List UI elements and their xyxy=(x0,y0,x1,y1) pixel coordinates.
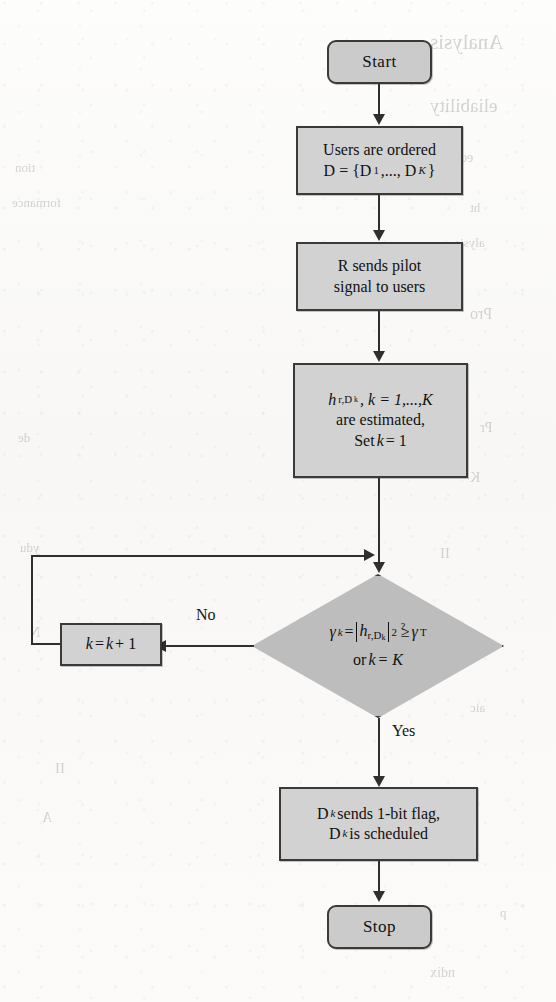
connector-no-branch xyxy=(160,645,254,647)
node-decision: γk = hr,Dk2 ? ≥γT or k = K xyxy=(252,574,504,718)
order-users-mid: ,..., D xyxy=(381,161,417,181)
loop-return-horizontal xyxy=(31,555,371,557)
decision-or-k: k xyxy=(368,649,375,671)
decision-power: 2 xyxy=(391,625,396,640)
node-order-users: Users are ordered D = {D1,..., DK} xyxy=(296,126,463,195)
node-increment-k-text: k = k + 1 xyxy=(86,634,136,654)
estimate-range: , k = 1,...,K xyxy=(360,390,433,410)
estimate-h-sub: r,D xyxy=(338,393,352,407)
estimate-h-subsub: k xyxy=(354,395,358,405)
node-stop: Stop xyxy=(327,905,432,949)
arrowhead-schedule-to-stop xyxy=(373,891,385,902)
node-send-pilot-line2: signal to users xyxy=(334,277,426,297)
connector-estimate-to-decision xyxy=(378,478,380,570)
edge-label-no: No xyxy=(196,606,216,624)
node-estimate-line3: Set k = 1 xyxy=(354,431,407,451)
order-users-d-prefix: D = {D xyxy=(324,161,372,181)
decision-gamma-t: γ xyxy=(412,621,418,643)
node-estimate-channels: hr,Dk, k = 1,...,K are estimated, Set k … xyxy=(293,363,468,478)
decision-abs-group: hr,Dk xyxy=(356,622,390,642)
decision-gamma-t-sub: T xyxy=(420,625,427,640)
node-estimate-line2: are estimated, xyxy=(336,410,425,430)
decision-h-subsub: k xyxy=(381,633,385,642)
node-send-pilot: R sends pilot signal to users xyxy=(296,242,463,311)
decision-equals: = xyxy=(345,621,354,643)
decision-question-mark: ? xyxy=(401,620,405,634)
node-start: Start xyxy=(327,40,432,84)
schedule-line2-rest: is scheduled xyxy=(349,824,428,844)
arrowhead-start-to-order xyxy=(373,114,385,125)
node-estimate-line1: hr,Dk, k = 1,...,K xyxy=(328,390,432,410)
increment-k2: k xyxy=(106,634,113,654)
connector-pilot-to-estimate xyxy=(378,311,380,355)
decision-condition-line1: γk = hr,Dk2 ? ≥γT xyxy=(329,621,426,643)
node-send-pilot-line1: R sends pilot xyxy=(338,256,422,276)
order-users-suffix: } xyxy=(428,161,436,181)
estimate-set-prefix: Set xyxy=(354,431,374,451)
order-users-sub-k: K xyxy=(418,164,425,178)
decision-or-prefix: or xyxy=(353,649,366,671)
node-schedule-user: Dk sends 1-bit flag, Dk is scheduled xyxy=(279,787,478,861)
estimate-h: h xyxy=(328,390,336,410)
flowchart-page: Analysiseliabilityedtionformancehtalysis… xyxy=(0,0,556,1002)
estimate-set-value: = 1 xyxy=(386,431,407,451)
edge-label-yes: Yes xyxy=(392,722,415,740)
node-increment-k: k = k + 1 xyxy=(60,623,162,666)
decision-gamma: γ xyxy=(329,621,335,643)
loop-return-vertical-left xyxy=(31,555,33,645)
decision-text: γk = hr,Dk2 ? ≥γT or k = K xyxy=(252,574,504,718)
arrowhead-pilot-to-estimate xyxy=(373,351,385,362)
estimate-set-k: k xyxy=(377,431,384,451)
connector-yes-branch xyxy=(378,718,380,783)
schedule-d1-sub: k xyxy=(331,807,336,821)
decision-h-sub: r,D xyxy=(368,629,382,641)
node-order-users-line1: Users are ordered xyxy=(323,140,436,160)
schedule-d2-sub: k xyxy=(343,827,348,841)
node-schedule-line1: Dk sends 1-bit flag, xyxy=(317,804,440,824)
connector-start-to-order xyxy=(378,84,380,118)
increment-k1: k xyxy=(86,634,93,654)
node-order-users-line2: D = {D1,..., DK} xyxy=(324,161,436,181)
arrowhead-order-to-pilot xyxy=(373,230,385,241)
node-schedule-line2: Dk is scheduled xyxy=(329,824,428,844)
schedule-d1: D xyxy=(317,804,329,824)
arrowhead-estimate-to-decision xyxy=(373,562,385,573)
schedule-line1-rest: sends 1-bit flag, xyxy=(337,804,440,824)
node-start-label: Start xyxy=(362,51,397,73)
arrowhead-yes-branch xyxy=(373,776,385,787)
node-stop-label: Stop xyxy=(363,916,396,938)
increment-equals: = xyxy=(95,634,104,654)
connector-order-to-pilot xyxy=(378,195,380,234)
decision-or-value: = K xyxy=(377,649,402,671)
arrowhead-loop-return xyxy=(364,549,375,561)
decision-gamma-sub: k xyxy=(338,625,343,640)
schedule-d2: D xyxy=(329,824,341,844)
increment-plus-one: + 1 xyxy=(115,634,136,654)
decision-condition-line2: or k = K xyxy=(353,649,403,671)
order-users-sub-1: 1 xyxy=(373,164,378,178)
decision-h: h xyxy=(360,622,368,639)
